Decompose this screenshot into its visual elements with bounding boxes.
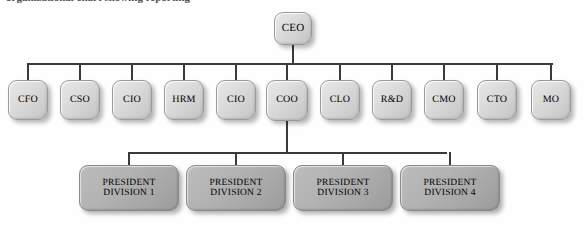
node-cmo-label: CMO	[425, 95, 463, 106]
node-clo[interactable]: CLO	[320, 80, 360, 120]
node-president-division-2-label: PRESIDENTDIVISION 2	[187, 178, 285, 199]
connector-drop-president-division-4	[449, 152, 451, 166]
node-rnd-label: R&D	[373, 95, 411, 106]
node-president-division-3-label: PRESIDENTDIVISION 3	[294, 178, 392, 199]
connector-drop-cmo	[443, 63, 445, 81]
node-president-division-3[interactable]: PRESIDENTDIVISION 3	[293, 165, 393, 211]
node-cio-2[interactable]: CIO	[216, 80, 256, 120]
connector-drop-cto	[496, 63, 498, 81]
node-clo-label: CLO	[321, 95, 359, 106]
node-mo-label: MO	[532, 95, 570, 106]
node-president-division-1-label: PRESIDENTDIVISION 1	[80, 178, 178, 199]
connector-division-bus	[128, 152, 447, 154]
node-president-division-3-label-line1: PRESIDENT	[296, 178, 390, 188]
org-chart-canvas: organizational chart showing reporting C…	[0, 0, 586, 231]
node-president-division-4-label-line2: DIVISION 4	[403, 188, 497, 198]
node-ceo-label: CEO	[275, 23, 311, 35]
node-hrm[interactable]: HRM	[164, 80, 204, 120]
node-president-division-2-label-line1: PRESIDENT	[189, 178, 283, 188]
node-president-division-4-label-line1: PRESIDENT	[403, 178, 497, 188]
node-cso[interactable]: CSO	[60, 80, 100, 120]
node-president-division-1-label-line2: DIVISION 1	[82, 188, 176, 198]
node-cio-1-label: CIO	[113, 95, 151, 106]
node-cmo[interactable]: CMO	[424, 80, 464, 120]
connector-drop-president-division-1	[128, 152, 130, 166]
connector-ceo-stem	[292, 45, 294, 65]
node-ceo[interactable]: CEO	[274, 12, 312, 45]
connector-drop-cio-2	[235, 63, 237, 81]
node-president-division-2-label-line2: DIVISION 2	[189, 188, 283, 198]
node-president-division-3-label-line2: DIVISION 3	[296, 188, 390, 198]
node-president-division-1-label-line1: PRESIDENT	[82, 178, 176, 188]
connector-drop-mo	[550, 63, 552, 81]
connector-drop-rnd	[391, 63, 393, 81]
connector-drop-clo	[339, 63, 341, 81]
node-coo[interactable]: COO	[266, 80, 308, 121]
node-president-division-4[interactable]: PRESIDENTDIVISION 4	[400, 165, 500, 211]
node-cto[interactable]: CTO	[477, 80, 517, 120]
connector-drop-president-division-2	[235, 152, 237, 166]
connector-drop-cso	[79, 63, 81, 81]
node-coo-label: COO	[267, 95, 307, 106]
connector-drop-cfo	[27, 63, 29, 81]
node-rnd[interactable]: R&D	[372, 80, 412, 120]
node-cfo[interactable]: CFO	[8, 80, 48, 120]
node-president-division-4-label: PRESIDENTDIVISION 4	[401, 178, 499, 199]
node-hrm-label: HRM	[165, 95, 203, 106]
connector-drop-president-division-3	[342, 152, 344, 166]
node-president-division-1[interactable]: PRESIDENTDIVISION 1	[79, 165, 179, 211]
node-cso-label: CSO	[61, 95, 99, 106]
connector-executive-bus	[27, 63, 553, 65]
connector-drop-cio-1	[131, 63, 133, 81]
connector-coo-stem	[286, 121, 288, 154]
node-cto-label: CTO	[478, 95, 516, 106]
connector-drop-hrm	[183, 63, 185, 81]
node-cio-2-label: CIO	[217, 95, 255, 106]
cut-off-title-remnant: organizational chart showing reporting	[6, 0, 266, 3]
node-mo[interactable]: MO	[531, 80, 571, 120]
node-president-division-2[interactable]: PRESIDENTDIVISION 2	[186, 165, 286, 211]
connector-drop-coo	[286, 63, 288, 81]
node-cio-1[interactable]: CIO	[112, 80, 152, 120]
node-cfo-label: CFO	[9, 95, 47, 106]
